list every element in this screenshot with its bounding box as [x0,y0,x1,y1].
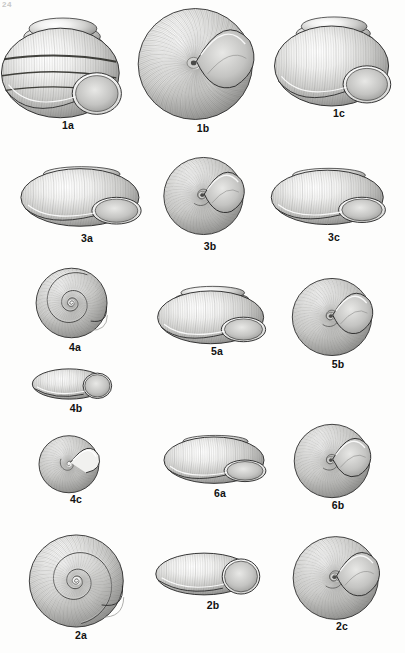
figure-4b: 4b [34,363,118,421]
shell-illustration-5a [164,283,270,349]
figure-2a: 2a [22,532,140,646]
figure-6a: 6a [170,430,270,504]
shell-illustration-1c [277,8,401,108]
figure-label-5b: 5b [288,358,388,370]
figure-label-1a: 1a [4,119,132,131]
figure-label-2b: 2b [158,599,268,611]
shell-illustration-2b [158,545,268,603]
figure-1b: 1b [139,5,267,139]
figure-label-2c: 2c [290,620,394,632]
shell-illustration-3a [28,160,146,232]
shell-illustration-1a [4,8,132,120]
illustration-plate: 24 1a1b1c3a3b3c4a4b4c5a5b6a6b2a2b2c [0,0,405,653]
shell-illustration-3b [156,155,264,237]
shell-illustration-2c [290,534,394,622]
shell-illustration-4b [34,363,118,405]
figure-5b: 5b [288,276,388,374]
shell-illustration-5b [288,276,388,358]
figure-2b: 2b [158,545,268,619]
figure-1a: 1a [4,8,132,136]
figure-2c: 2c [290,534,394,638]
figure-5a: 5a [164,283,270,365]
figure-label-6b: 6b [288,499,388,511]
shell-illustration-4c [32,432,120,494]
figure-label-1c: 1c [277,107,401,119]
shell-illustration-6b [288,422,388,500]
figure-label-3b: 3b [156,240,264,252]
figure-6b: 6b [288,422,388,516]
figure-3b: 3b [156,155,264,253]
shell-illustration-1b [139,5,267,123]
figure-1c: 1c [277,8,401,124]
figure-label-5a: 5a [164,345,270,357]
shell-illustration-2a [22,532,140,630]
figure-3a: 3a [28,160,146,248]
figure-4c: 4c [32,432,120,510]
figure-label-2a: 2a [22,629,140,641]
shell-illustration-3c [278,162,390,230]
figure-label-3a: 3a [28,232,146,244]
figure-label-4b: 4b [34,402,118,414]
figure-label-4c: 4c [32,493,120,505]
shell-illustration-6a [170,430,270,488]
shell-illustration-4a [32,266,118,340]
figure-label-6a: 6a [170,487,270,499]
figure-3c: 3c [278,162,390,246]
figure-label-4a: 4a [32,341,118,353]
figure-4a: 4a [32,266,118,356]
figure-label-1b: 1b [139,122,267,134]
figure-label-3c: 3c [278,231,390,243]
